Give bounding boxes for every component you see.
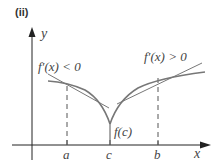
tick-label-b: b bbox=[154, 147, 161, 163]
right-derivative-label: f′(x) > 0 bbox=[144, 49, 187, 65]
function-curve-left bbox=[48, 81, 110, 124]
x-axis-arrow-icon bbox=[200, 142, 211, 149]
tangent-line-right bbox=[117, 63, 202, 104]
x-axis-label: x bbox=[194, 146, 200, 162]
tick-label-a: a bbox=[63, 147, 70, 163]
cusp-value-label: f(c) bbox=[114, 124, 132, 140]
tangent-line-left bbox=[48, 74, 109, 108]
derivative-cusp-diagram: (ii) y x a c b f(c) f′(x) < 0 f′(x) > 0 bbox=[0, 0, 218, 166]
y-axis-label: y bbox=[41, 26, 47, 42]
diagram-canvas bbox=[0, 0, 218, 166]
tick-label-c: c bbox=[106, 147, 112, 163]
left-derivative-label: f′(x) < 0 bbox=[38, 59, 81, 75]
panel-label: (ii) bbox=[15, 6, 28, 18]
y-axis-arrow-icon bbox=[29, 27, 36, 37]
